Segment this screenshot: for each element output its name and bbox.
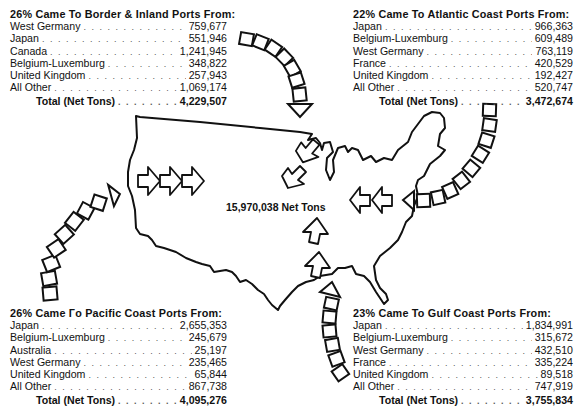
total-row: Total (Net Tons)3,755,834 [353, 395, 573, 407]
list-item: All Other1,069,174 [10, 82, 227, 94]
list-item: Belgium-Luxemburg315,672 [353, 332, 573, 344]
leader-dots [426, 346, 531, 357]
list-item: West Germany763,119 [353, 46, 573, 58]
border-inland-ports-panel: 26% Came To Border & Inland Ports From: … [10, 9, 227, 109]
leader-dots [118, 97, 177, 108]
list-item: Australia25,197 [10, 345, 227, 357]
gulf-inland-arrows [303, 218, 330, 278]
list-item: Belgium-Luxemburg609,489 [353, 33, 573, 45]
panel-title: 23% Came To Gulf Coast Ports From: [353, 308, 573, 319]
leader-dots [88, 370, 191, 381]
atlantic-flow-arrow [403, 104, 497, 210]
panel-title: 26% Came Гo Pacific Coast Ports From: [10, 308, 227, 319]
pacific-coast-ports-panel: 26% Came Гo Pacific Coast Ports From: Ja… [10, 308, 227, 408]
list-item: West Germany432,510 [353, 345, 573, 357]
leader-dots [431, 370, 537, 381]
leader-dots [83, 358, 185, 369]
leader-dots [54, 382, 185, 393]
list-item: Canada1,241,945 [10, 46, 227, 58]
total-net-tons-label: 15,970,038 Net Tons [226, 201, 326, 213]
total-row: Total (Net Tons)3,472,674 [353, 96, 573, 108]
leader-dots [42, 34, 186, 45]
pacific-flow-arrow [41, 183, 122, 300]
panel-title: 22% Came To Atlantic Coast Ports From: [353, 9, 573, 20]
leader-dots [108, 59, 186, 70]
gulf-flow-arrow [320, 282, 349, 381]
leader-dots [108, 333, 186, 344]
leader-dots [426, 47, 532, 58]
list-item: Belgium-Luxemburg245,679 [10, 332, 227, 344]
leader-dots [461, 396, 523, 407]
leader-dots [397, 382, 531, 393]
leader-dots [431, 71, 531, 82]
list-item: All Other520,747 [353, 82, 573, 94]
atlantic-coast-ports-panel: 22% Came To Atlantic Coast Ports From: J… [353, 9, 573, 109]
atlantic-inland-arrows [350, 187, 392, 213]
leader-dots [118, 396, 177, 407]
border-flow-arrow [239, 32, 312, 117]
total-row: Total (Net Tons)4,229,507 [10, 96, 227, 108]
list-item: Japan551,946 [10, 33, 227, 45]
gulf-coast-ports-panel: 23% Came To Gulf Coast Ports From: Japan… [353, 308, 573, 408]
pacific-inland-arrows [138, 167, 204, 195]
leader-dots [88, 71, 185, 82]
leader-dots [451, 333, 532, 344]
total-row: Total (Net Tons)4,095,276 [10, 395, 227, 407]
leader-dots [397, 83, 531, 94]
leader-dots [83, 22, 185, 33]
list-item: All Other867,738 [10, 381, 227, 393]
list-item: All Other747,919 [353, 381, 573, 393]
leader-dots [451, 34, 532, 45]
inland-arrows [282, 139, 321, 188]
panel-title: 26% Came To Border & Inland Ports From: [10, 9, 227, 20]
leader-dots [54, 83, 177, 94]
leader-dots [461, 97, 523, 108]
